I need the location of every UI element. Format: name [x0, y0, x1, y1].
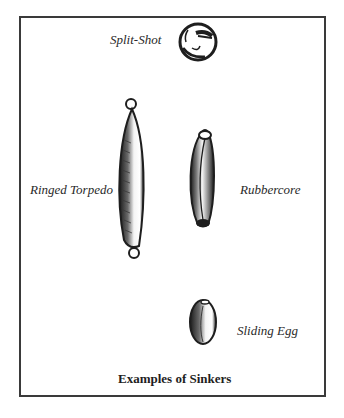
- figure-frame: [19, 16, 326, 397]
- label-split-shot: Split-Shot: [110, 33, 161, 46]
- figure-caption: Examples of Sinkers: [118, 372, 231, 385]
- label-sliding-egg: Sliding Egg: [237, 324, 298, 337]
- label-rubbercore: Rubbercore: [240, 183, 300, 196]
- label-ringed-torpedo: Ringed Torpedo: [30, 183, 113, 196]
